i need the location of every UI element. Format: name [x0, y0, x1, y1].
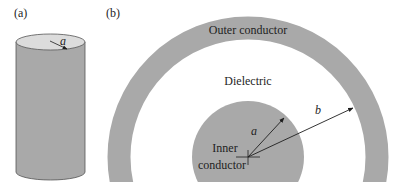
cylinder-top-face	[16, 34, 85, 50]
coaxial-diagram: (a) a (b) Outer conductor Dielectric Inn…	[0, 0, 402, 188]
cylinder-radius-label: a	[60, 34, 66, 48]
panel-b-label: (b)	[106, 6, 120, 20]
cylinder-body	[16, 42, 85, 180]
panel-a-label: (a)	[14, 6, 27, 20]
inner-conductor-disc	[192, 101, 304, 188]
outer-radius-label: b	[315, 103, 321, 117]
inner-conductor-label-line2: conductor	[198, 158, 246, 172]
inner-radius-label: a	[251, 124, 257, 138]
cylinder-figure	[16, 34, 85, 180]
outer-conductor-label: Outer conductor	[209, 23, 287, 37]
inner-conductor-label-line1: Inner	[212, 141, 237, 155]
dielectric-label: Dielectric	[224, 74, 271, 88]
